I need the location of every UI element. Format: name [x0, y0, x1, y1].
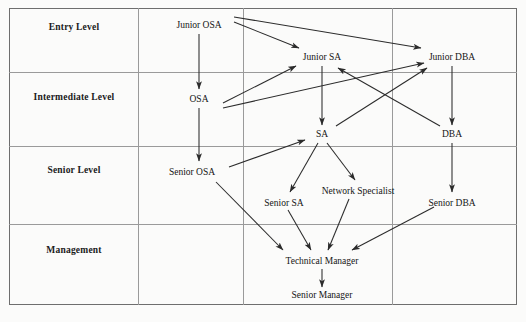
node-dba: DBA	[442, 129, 462, 139]
node-senior-dba: Senior DBA	[428, 198, 475, 208]
node-senior-sa: Senior SA	[264, 198, 303, 208]
node-junior-sa: Junior SA	[303, 52, 341, 62]
level-label-entry: Entry Level	[49, 22, 99, 32]
grid-row-divider-1	[9, 72, 517, 73]
level-label-intermediate: Intermediate Level	[34, 92, 115, 102]
grid-border-top	[9, 8, 517, 9]
node-junior-osa: Junior OSA	[176, 20, 221, 30]
level-label-management: Management	[46, 245, 101, 255]
grid-border-bottom	[9, 304, 517, 305]
grid-col-divider-3	[392, 8, 393, 305]
grid-border-left	[9, 8, 10, 305]
node-network-specialist: Network Specialist	[322, 186, 395, 196]
node-senior-osa: Senior OSA	[169, 167, 215, 177]
diagram-canvas: Entry Level Intermediate Level Senior Le…	[0, 0, 526, 322]
node-senior-manager: Senior Manager	[292, 290, 353, 300]
node-junior-dba: Junior DBA	[429, 52, 475, 62]
node-osa: OSA	[189, 94, 208, 104]
node-sa: SA	[316, 129, 328, 139]
grid-row-divider-2	[9, 146, 517, 147]
grid-border-right	[516, 8, 517, 305]
grid-col-divider-1	[138, 8, 139, 305]
node-technical-manager: Technical Manager	[286, 256, 359, 266]
grid-row-divider-3	[9, 224, 517, 225]
level-label-senior: Senior Level	[47, 165, 100, 175]
grid-col-divider-2	[243, 8, 244, 305]
